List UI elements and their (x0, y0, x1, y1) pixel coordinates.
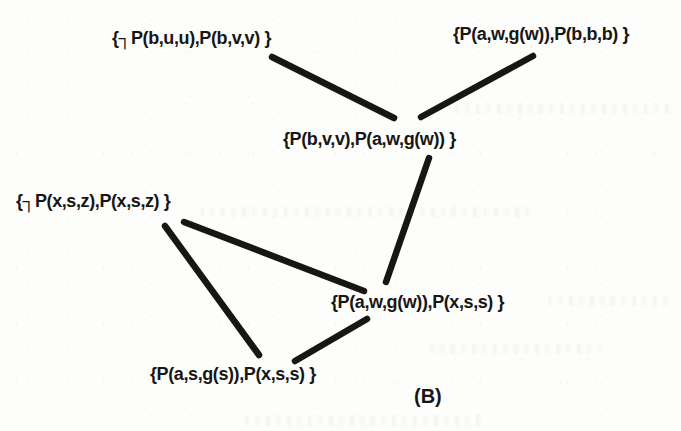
scanned-figure-page: {┐P(b,u,u),P(b,v,v) } {P(a,w,g(w)),P(b,b… (0, 0, 681, 431)
scan-artifact (245, 416, 485, 426)
clause-node-top-right: {P(a,w,g(w)),P(b,b,b) } (453, 24, 629, 45)
figure-caption: (B) (414, 385, 442, 408)
edge-top-right-to-middle (421, 56, 533, 117)
scan-artifact (455, 104, 670, 114)
clause-node-middle: {P(b,v,v),P(a,w,g(w)) } (283, 129, 456, 150)
clause-node-mid-right: {P(a,w,g(w)),P(x,s,s) } (331, 292, 504, 313)
clause-node-bottom: {P(a,s,g(s)),P(x,s,s) } (150, 364, 316, 385)
scan-artifact (200, 207, 530, 217)
scan-artifact (548, 296, 673, 306)
edge-left-to-mid-right (184, 222, 364, 291)
edge-bottom-to-mid-right (295, 319, 367, 361)
graph-edges (0, 0, 681, 431)
scan-artifact (430, 344, 600, 354)
clause-node-left: {┐P(x,s,z),P(x,s,z) } (16, 191, 170, 212)
edge-left-to-bottom (165, 226, 259, 355)
edge-middle-to-mid-right (386, 158, 429, 282)
edge-top-left-to-middle (272, 57, 394, 118)
clause-node-top-left: {┐P(b,u,u),P(b,v,v) } (112, 28, 271, 49)
